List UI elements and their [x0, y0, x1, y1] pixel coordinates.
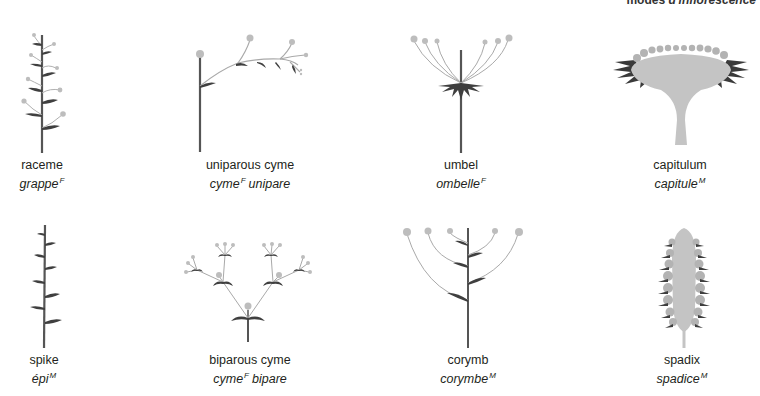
illustration-corymb — [395, 220, 535, 350]
corymb-icon — [395, 220, 535, 350]
illustration-uniparous-cyme — [180, 0, 320, 155]
label-en: corymb — [388, 353, 548, 368]
label-en: spadix — [602, 353, 760, 368]
biparous-cyme-icon — [175, 230, 320, 345]
illustration-spadix — [640, 220, 720, 350]
label-fr: cymeFunipare — [170, 173, 330, 192]
label-capitulum: capitulum capituleM — [600, 158, 760, 192]
label-spike: spike épiM — [0, 353, 124, 387]
illustration-umbel — [400, 0, 540, 155]
umbel-icon — [400, 0, 540, 155]
spike-icon — [0, 220, 90, 350]
label-en: uniparous cyme — [170, 158, 330, 173]
label-fr: épiM — [0, 368, 124, 387]
capitulum-icon — [605, 0, 760, 155]
label-biparous-cyme: biparous cyme cymeFbipare — [170, 353, 330, 387]
label-en: raceme — [0, 158, 122, 173]
label-en: capitulum — [600, 158, 760, 173]
label-fr: capituleM — [600, 173, 760, 192]
label-fr: ombelleF — [381, 173, 541, 192]
label-raceme: raceme grappeF — [0, 158, 122, 192]
illustration-capitulum — [605, 0, 760, 155]
illustration-biparous-cyme — [175, 230, 320, 345]
label-fr: cymeFbipare — [170, 368, 330, 387]
label-en: biparous cyme — [170, 353, 330, 368]
label-spadix: spadix spadiceM — [602, 353, 760, 387]
illustration-raceme — [0, 0, 90, 150]
label-fr: grappeF — [0, 173, 122, 192]
label-umbel: umbel ombelleF — [381, 158, 541, 192]
uniparous-cyme-icon — [180, 0, 320, 155]
raceme-icon — [0, 0, 90, 150]
label-uniparous-cyme: uniparous cyme cymeFunipare — [170, 158, 330, 192]
label-en: umbel — [381, 158, 541, 173]
label-en: spike — [0, 353, 124, 368]
spadix-icon — [640, 220, 720, 350]
label-fr: corymbeM — [388, 368, 548, 387]
illustration-spike — [0, 220, 90, 350]
label-corymb: corymb corymbeM — [388, 353, 548, 387]
label-fr: spadiceM — [602, 368, 760, 387]
